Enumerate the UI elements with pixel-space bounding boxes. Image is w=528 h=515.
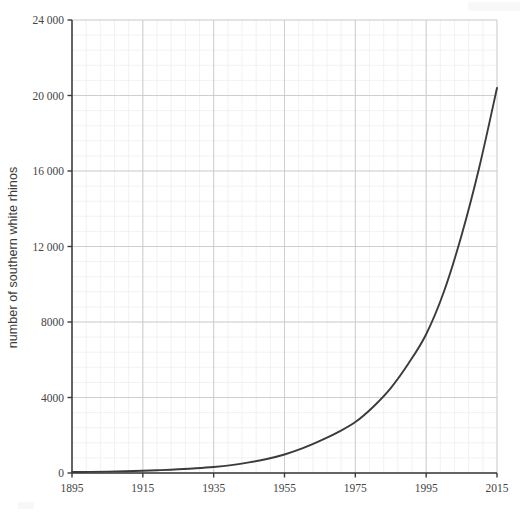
plot-area [0,0,528,515]
chart-figure: number of southern white rhinos 24 000 2… [0,0,528,515]
axis-tick-marks [68,20,498,478]
major-gridlines [72,20,497,473]
